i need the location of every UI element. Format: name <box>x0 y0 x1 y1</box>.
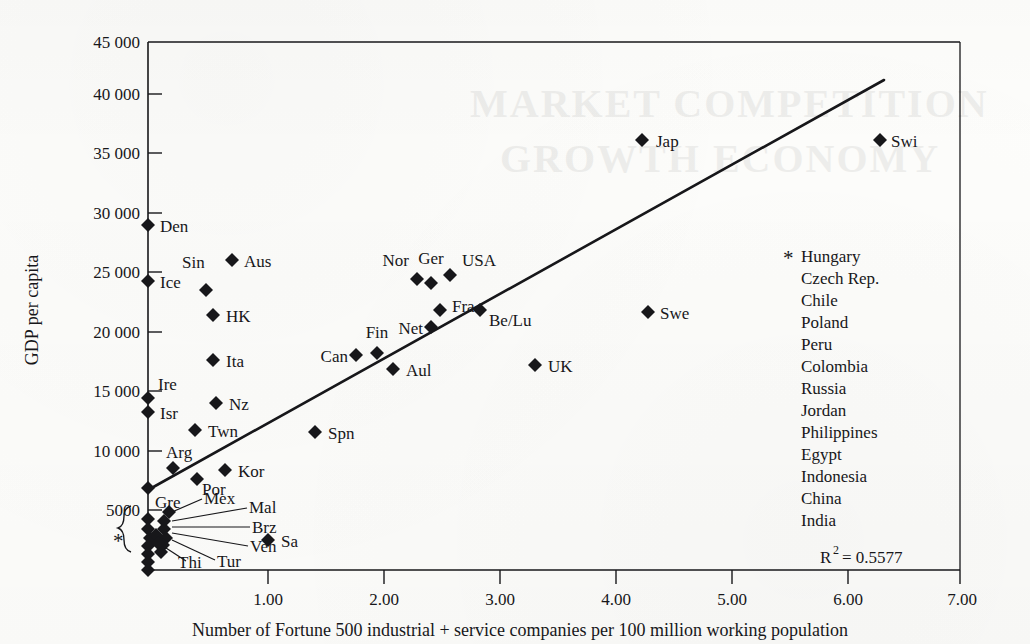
point-label-nz: Nz <box>229 395 249 414</box>
point-label-aus: Aus <box>244 252 271 271</box>
legend-country: Jordan <box>801 401 847 420</box>
point-label-ger: Ger <box>418 249 444 268</box>
y-tick-label: 40 000 <box>93 85 140 104</box>
legend-country: Czech Rep. <box>801 269 879 288</box>
marker-ger <box>424 276 438 290</box>
point-label-nor: Nor <box>383 251 410 270</box>
point-label-brz: Brz <box>252 518 277 537</box>
point-label-ire: Ire <box>158 375 177 394</box>
marker-nz <box>209 396 223 410</box>
unlabeled-country-legend: * Hungary Czech Rep. Chile Poland Peru C… <box>783 246 879 530</box>
y-tick-label: 5000 <box>106 501 140 520</box>
marker-swe <box>641 305 655 319</box>
legend-country: China <box>801 489 842 508</box>
point-label-kor: Kor <box>238 462 265 481</box>
r-squared-annotation: R 2 = 0.5577 <box>820 543 903 567</box>
point-label-can: Can <box>321 347 349 366</box>
x-tick-label: 6.00 <box>833 590 863 609</box>
x-tick-label: 7.00 <box>947 590 977 609</box>
legend-country: Egypt <box>801 445 842 464</box>
marker-jap <box>635 133 649 147</box>
point-label-swe: Swe <box>660 304 689 323</box>
point-label-uk: UK <box>548 357 573 376</box>
point-label-gre: Gre <box>155 493 180 512</box>
marker-uk <box>528 358 542 372</box>
marker-den <box>141 218 155 232</box>
point-label-spn: Spn <box>328 424 355 443</box>
y-tick-label: 45 000 <box>93 33 140 52</box>
legend-country: Indonesia <box>801 467 868 486</box>
point-label-tur: Tur <box>217 552 241 571</box>
legend-country: Chile <box>801 291 838 310</box>
point-label-usa: USA <box>462 251 497 270</box>
legend-country: Poland <box>801 313 849 332</box>
marker-ita <box>206 353 220 367</box>
y-tick-label: 10 000 <box>93 442 140 461</box>
point-label-ven: Ven <box>250 537 277 556</box>
trendline <box>148 80 884 490</box>
point-label-sa: Sa <box>281 532 298 551</box>
point-label-swi: Swi <box>891 132 918 151</box>
r2-prefix: R <box>820 548 832 567</box>
asterisk-marker-legend: * <box>783 246 794 270</box>
point-label-isr: Isr <box>160 404 178 423</box>
marker-usa <box>443 268 457 282</box>
x-tick-label: 2.00 <box>369 590 399 609</box>
point-label-twn: Twn <box>208 422 238 441</box>
legend-country: India <box>801 511 836 530</box>
point-label-net: Net <box>398 319 423 338</box>
marker-fra <box>433 303 447 317</box>
point-label-jap: Jap <box>656 132 679 151</box>
x-axis-ticks <box>268 570 960 584</box>
point-label-fin: Fin <box>366 323 389 342</box>
marker-nor <box>410 272 424 286</box>
x-tick-label: 3.00 <box>485 590 515 609</box>
marker-gre <box>141 481 155 495</box>
marker-ice <box>141 274 155 288</box>
marker-swi <box>873 133 887 147</box>
figure-page: MARKET COMPETITION GROWTH ECONOMY 5000 1… <box>0 0 1030 644</box>
point-label-thi: Thi <box>178 553 202 572</box>
marker-sin <box>199 283 213 297</box>
point-label-hk: HK <box>226 307 251 326</box>
x-tick-label: 1.00 <box>253 590 283 609</box>
scatter-chart: 5000 10 000 15 000 20 000 25 000 30 000 … <box>0 0 1030 644</box>
marker-aus <box>225 253 239 267</box>
point-label-mal: Mal <box>249 498 277 517</box>
marker-kor <box>218 463 232 477</box>
marker-net <box>424 320 438 334</box>
y-tick-label: 30 000 <box>93 204 140 223</box>
y-tick-label: 15 000 <box>93 382 140 401</box>
marker-star-7 <box>141 563 155 577</box>
x-axis-tick-labels: 1.00 2.00 3.00 4.00 5.00 6.00 7.00 <box>253 590 977 609</box>
x-axis-title: Number of Fortune 500 industrial + servi… <box>192 620 848 640</box>
asterisk-marker-axis: * <box>113 529 124 553</box>
marker-spn <box>308 425 322 439</box>
x-tick-label: 5.00 <box>717 590 747 609</box>
legend-country: Colombia <box>801 357 869 376</box>
y-axis-title: GDP per capita <box>22 255 42 365</box>
legend-country: Philippines <box>801 423 878 442</box>
point-label-den: Den <box>160 217 189 236</box>
x-tick-label: 4.00 <box>601 590 631 609</box>
y-axis-ticks <box>148 94 162 510</box>
legend-country: Russia <box>801 379 847 398</box>
y-tick-label: 25 000 <box>93 263 140 282</box>
point-label-aul: Aul <box>406 361 432 380</box>
point-label-belu: Be/Lu <box>489 311 532 330</box>
legend-country: Hungary <box>801 247 861 266</box>
point-label-arg: Arg <box>166 443 193 462</box>
marker-isr <box>141 405 155 419</box>
marker-hk <box>206 308 220 322</box>
y-axis-tick-labels: 5000 10 000 15 000 20 000 25 000 30 000 … <box>93 33 140 520</box>
marker-fin <box>370 346 384 360</box>
r2-value: = 0.5577 <box>842 548 903 567</box>
point-label-ita: Ita <box>226 352 244 371</box>
marker-ire <box>141 391 155 405</box>
legend-country: Peru <box>801 335 833 354</box>
marker-belu <box>473 303 487 317</box>
marker-aul <box>386 362 400 376</box>
marker-twn <box>188 423 202 437</box>
y-tick-label: 20 000 <box>93 323 140 342</box>
point-label-mex: Mex <box>204 489 236 508</box>
